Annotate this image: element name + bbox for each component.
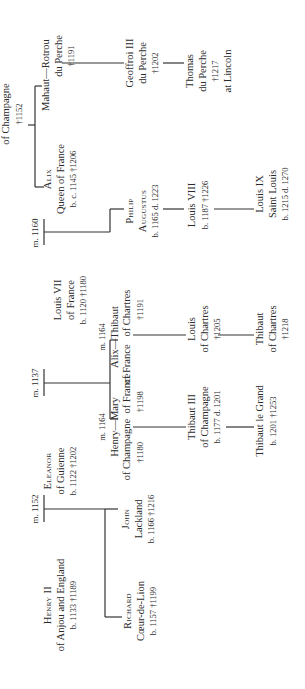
node-louis8-name: Louis VIII xyxy=(186,181,199,230)
node-champagne-name: of Champagne xyxy=(0,83,13,145)
node-thibaut3-house: of Champagne xyxy=(199,386,212,448)
node-louis9-dates: b. 1215 d. 1270 xyxy=(279,167,292,220)
node-philip-name2: Augustus xyxy=(137,185,150,238)
marriage-1137: m. 1137 xyxy=(30,368,40,397)
node-thibaut-house: of Chartres xyxy=(121,290,132,337)
node-henry-mary-marriage: m. 1164 xyxy=(96,374,109,481)
node-thomas-name: Thomas xyxy=(184,50,197,93)
node-henry2-name: Henry II xyxy=(42,559,55,651)
node-alix-thibaut: m. 1164 Alix—Thibaut of France of Chartr… xyxy=(96,290,146,385)
node-eleanor-house: of Guienne xyxy=(55,447,68,496)
marriage-1160: m. 1160 xyxy=(30,218,40,247)
node-thibaut-lg-dates: b. 1201 †1253 xyxy=(267,385,280,457)
node-mary-death: †1198 xyxy=(135,391,145,412)
node-john-name: John xyxy=(120,495,133,544)
node-champagne: of Champagne †1152 xyxy=(0,83,25,145)
node-geoffroi-death: †1202 xyxy=(149,38,162,87)
node-henry-mary-name: Henry—Mary xyxy=(109,374,122,481)
node-thomas-place: at Lincoln xyxy=(222,50,235,93)
node-geoffroi-name: Geoffroi III xyxy=(124,38,137,87)
node-thibaut-chartres: Thibaut of Chartres †1218 xyxy=(254,306,292,353)
node-philip-augustus: Philip Augustus b. 1165 d. 1223 xyxy=(124,185,162,238)
node-louis7-dates: b. 1120 †1180 xyxy=(77,276,90,324)
node-thibaut-ch-death: †1218 xyxy=(279,306,292,353)
node-alix-queen: Alix Queen of France b. c. 1145 †1206 xyxy=(42,144,80,214)
family-tree-diagram: of Champagne †1152 Mahaut—Rotrou du Perc… xyxy=(0,0,305,689)
node-thibaut-le-grand: Thibaut le Grand b. 1201 †1253 xyxy=(254,385,279,457)
node-louis9-title: Saint Louis xyxy=(267,167,280,220)
node-louis-ch-death: †1205 xyxy=(211,306,224,353)
node-thibaut-lg-name: Thibaut le Grand xyxy=(254,385,267,457)
node-thibaut3-dates: b. 1177 d. 1201 xyxy=(211,386,224,448)
node-louis-viii: Louis VIII b. 1187 †1226 xyxy=(186,181,211,230)
node-geoffroi-house: du Perche xyxy=(137,38,150,87)
node-louis-chartres: Louis of Chartres †1205 xyxy=(186,306,224,353)
node-john: John Lackland b. 1166 †1216 xyxy=(120,495,158,544)
node-alix-title: Queen of France xyxy=(55,144,68,214)
node-thibaut-iii: Thibaut III of Champagne b. 1177 d. 1201 xyxy=(186,386,224,448)
node-alix-thibaut-name: Alix—Thibaut xyxy=(109,290,122,385)
node-mahaut-name: Mahaut—Rotrou xyxy=(40,35,53,115)
node-thomas-house: du Perche xyxy=(197,50,210,93)
node-richard-name: Richard xyxy=(122,581,135,641)
node-louis-ch-house: of Chartres xyxy=(199,306,212,353)
node-louis-vii: Louis VII of France b. 1120 †1180 xyxy=(52,276,90,324)
node-louis8-dates: b. 1187 †1226 xyxy=(199,181,212,230)
node-mary-house: of France xyxy=(121,374,132,414)
node-richard-dates: b. 1157 †1199 xyxy=(147,581,160,641)
node-henry-house: of Champagne xyxy=(121,419,132,481)
node-john-dates: b. 1166 †1216 xyxy=(145,495,158,544)
node-philip-name: Philip xyxy=(124,185,137,238)
node-champagne-death: †1152 xyxy=(13,83,26,145)
node-mahaut-rotrou: Mahaut—Rotrou du Perche †1191 xyxy=(40,35,78,115)
node-eleanor-name: Eleanor xyxy=(42,447,55,496)
node-henry2-house: of Anjou and England xyxy=(55,559,68,651)
node-louis9-name: Louis IX xyxy=(254,167,267,220)
node-mahaut-house: du Perche xyxy=(53,35,66,115)
node-john-title: Lackland xyxy=(133,495,146,544)
node-eleanor-dates: b. 1122 †1202 xyxy=(67,447,80,496)
node-richard: Richard Cœur-de-Lion b. 1157 †1199 xyxy=(122,581,160,641)
node-eleanor: Eleanor of Guienne b. 1122 †1202 xyxy=(42,447,80,496)
node-philip-dates: b. 1165 d. 1223 xyxy=(149,185,162,238)
node-mahaut-death: †1191 xyxy=(65,35,78,115)
node-henry2-dates: b. 1133 †1189 xyxy=(67,559,80,651)
node-thibaut-death: †1191 xyxy=(134,290,147,385)
node-henry-ii: Henry II of Anjou and England b. 1133 †1… xyxy=(42,559,80,651)
node-alix-thibaut-marriage: m. 1164 xyxy=(96,290,109,385)
node-richard-title: Cœur-de-Lion xyxy=(135,581,148,641)
node-louis7-name: Louis VII xyxy=(52,276,65,324)
marriage-1152: m. 1152 xyxy=(30,494,40,523)
node-thibaut3-name: Thibaut III xyxy=(186,386,199,448)
node-louis-ix: Louis IX Saint Louis b. 1215 d. 1270 xyxy=(254,167,292,220)
node-thibaut-ch-name: Thibaut xyxy=(254,306,267,353)
node-thomas-death: †1217 xyxy=(209,50,222,93)
node-alix-name: Alix xyxy=(42,144,55,214)
node-thomas: Thomas du Perche †1217 at Lincoln xyxy=(184,50,234,93)
node-henry-mary: m. 1164 Henry—Mary of Champagne of Franc… xyxy=(96,374,146,481)
node-geoffroi: Geoffroi III du Perche †1202 xyxy=(124,38,162,87)
node-henry-death: †1180 xyxy=(135,442,145,463)
node-alix-dates: b. c. 1145 †1206 xyxy=(67,144,80,214)
node-louis7-house: of France xyxy=(65,276,78,324)
node-thibaut-ch-house: of Chartres xyxy=(267,306,280,353)
node-louis-ch-name: Louis xyxy=(186,306,199,353)
